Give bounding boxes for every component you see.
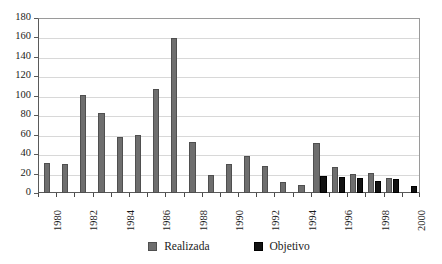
bar-realizada [368,173,374,193]
bar-objetivo [411,186,417,193]
bar-realizada [350,174,356,193]
bar-realizada [117,137,123,193]
y-tick-label: 0 [26,187,31,198]
y-tick-label: 160 [15,31,31,42]
x-tick-label: 1996 [343,210,354,231]
bar-realizada [262,166,268,193]
y-tick-label: 80 [21,109,32,120]
bar-objetivo [320,176,326,193]
bar-realizada [244,156,250,193]
x-tick-label: 1994 [307,210,318,231]
x-axis-labels: 1980198219841986198819901992199419961998… [38,197,420,241]
x-tick-label: 1984 [125,210,136,231]
y-tick-label: 120 [15,70,31,81]
bar-realizada [298,185,304,193]
bar-realizada [208,175,214,193]
y-tick-label: 180 [15,12,31,23]
bar-realizada [386,178,392,193]
bar-realizada [332,167,338,193]
bar-realizada [44,163,50,193]
bar-realizada [80,95,86,193]
x-tick-label: 1982 [88,210,99,231]
legend-label: Realizada [164,240,209,252]
x-tick-label: 1986 [161,210,172,231]
bar-realizada [226,164,232,193]
bar-objetivo [393,179,399,193]
bar-realizada [171,38,177,193]
legend-label: Objetivo [270,240,310,252]
bar-realizada [62,164,68,193]
bar-realizada [98,113,104,193]
bar-objetivo [339,177,345,193]
y-tick-label: 100 [15,90,31,101]
bar-objetivo [357,178,363,193]
chart-legend: RealizadaObjetivo [38,236,420,256]
y-tick-label: 20 [21,168,32,179]
bar-realizada [189,142,195,193]
legend-entry: Objetivo [254,240,310,252]
bar-chart-figure: 020406080100120140160180 198019821984198… [0,0,442,264]
gray-square-swatch [148,242,157,251]
y-tick-label: 40 [21,148,32,159]
bar-realizada [280,182,286,193]
y-tick-label: 140 [15,51,31,62]
x-tick-label: 1998 [380,210,391,231]
x-tick-label: 1988 [198,210,209,231]
bar-realizada [135,135,141,193]
x-tick-label: 1980 [52,210,63,231]
x-tick-label: 1992 [270,210,281,231]
black-square-swatch [254,242,263,251]
bars-layer [38,18,420,193]
bar-realizada [153,89,159,193]
x-tick-label: 2000 [416,210,427,231]
y-tick-label: 60 [21,129,32,140]
bar-objetivo [375,181,381,193]
legend-entry: Realizada [148,240,209,252]
y-axis: 020406080100120140160180 [0,0,38,264]
bar-realizada [313,143,319,193]
x-tick-label: 1990 [234,210,245,231]
